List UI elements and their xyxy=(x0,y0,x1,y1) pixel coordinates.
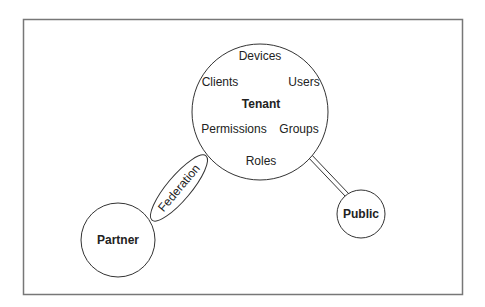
member-users: Users xyxy=(288,75,319,89)
diagram-canvas: Federation Devices Clients Users Tenant … xyxy=(0,0,485,307)
member-permissions: Permissions xyxy=(201,122,266,136)
tenant-label: Tenant xyxy=(242,97,280,111)
member-clients: Clients xyxy=(202,75,239,89)
partner-node: Partner xyxy=(81,203,155,277)
tenant-node: Devices Clients Users Tenant Permissions… xyxy=(192,44,328,180)
member-roles: Roles xyxy=(246,154,277,168)
public-label: Public xyxy=(343,207,379,221)
member-devices: Devices xyxy=(239,49,282,63)
partner-label: Partner xyxy=(97,233,139,247)
public-node: Public xyxy=(337,190,385,238)
member-groups: Groups xyxy=(279,122,318,136)
